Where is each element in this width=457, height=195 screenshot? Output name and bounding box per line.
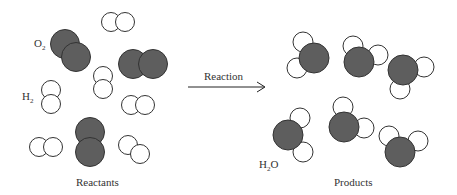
h2o-label: H2O <box>259 158 278 173</box>
products-group <box>273 32 434 167</box>
h2-molecule <box>94 67 113 99</box>
h2o-molecule <box>273 108 313 162</box>
oxygen-atom <box>385 137 415 167</box>
hydrogen-atom <box>116 13 135 32</box>
o2-molecule <box>76 118 105 167</box>
reaction-arrow <box>188 82 265 92</box>
oxygen-atom <box>329 112 359 142</box>
h2-molecule <box>30 138 63 157</box>
reaction-diagram <box>0 0 457 195</box>
oxygen-atom <box>299 43 329 73</box>
reactants-caption: Reactants <box>76 176 119 188</box>
o2-molecule <box>51 30 91 72</box>
h2o-molecule <box>343 36 388 77</box>
h2-molecule <box>42 81 61 114</box>
h2o-molecule <box>388 55 434 99</box>
o2-molecule <box>119 50 168 79</box>
h2-molecule <box>122 96 155 115</box>
reactants-group <box>30 13 168 167</box>
oxygen-atom <box>62 43 91 72</box>
hydrogen-atom <box>44 138 63 157</box>
hydrogen-atom <box>136 96 155 115</box>
h2-label: H2 <box>22 90 33 105</box>
hydrogen-atom <box>131 145 150 164</box>
h2o-molecule <box>287 32 329 78</box>
o2-label: O2 <box>34 37 45 52</box>
reaction-label: Reaction <box>204 70 243 82</box>
products-caption: Products <box>334 176 373 188</box>
oxygen-atom <box>139 50 168 79</box>
h2-molecule <box>119 136 150 164</box>
oxygen-atom <box>388 55 418 85</box>
hydrogen-atom <box>42 95 61 114</box>
oxygen-atom <box>344 47 374 77</box>
hydrogen-atom <box>94 80 113 99</box>
oxygen-atom <box>76 138 105 167</box>
h2o-molecule <box>329 97 374 142</box>
h2-molecule <box>102 13 135 32</box>
h2o-molecule <box>379 126 428 167</box>
oxygen-atom <box>273 120 303 150</box>
